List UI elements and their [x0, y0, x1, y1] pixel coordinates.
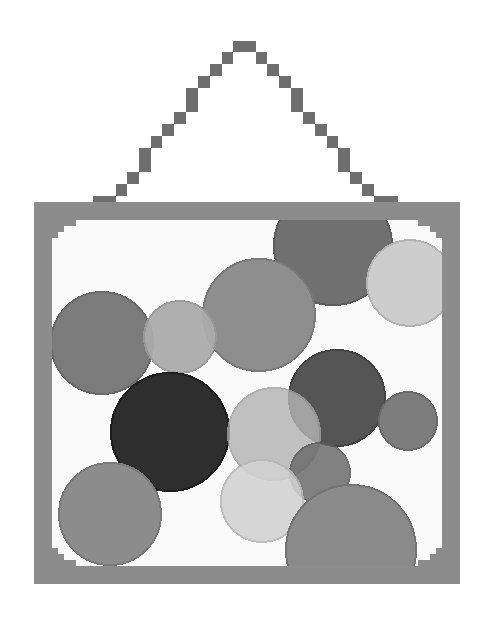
wire-segment	[174, 112, 186, 124]
wire-segment	[198, 76, 210, 88]
circle-small-right	[379, 392, 437, 450]
circle-bottom-left	[59, 463, 161, 565]
wire-segment	[233, 41, 256, 52]
wire-segment	[139, 148, 151, 172]
wire-segment	[162, 124, 174, 136]
wire-segment	[267, 64, 279, 76]
wire-segment	[315, 124, 327, 136]
wire-segment	[93, 196, 116, 202]
wire-segment	[362, 184, 374, 196]
wire-segment	[291, 88, 303, 112]
wire-segment	[222, 52, 233, 64]
wire-segment	[116, 184, 127, 196]
circle-mid-large	[203, 259, 315, 371]
wire-segment	[374, 196, 398, 202]
wire-segment	[151, 136, 162, 148]
wire-segment	[210, 64, 222, 76]
circle-bottom-big	[286, 485, 416, 615]
wire-segment	[338, 148, 350, 172]
hanging-picture-art	[0, 0, 494, 627]
hanging-wire	[93, 41, 398, 202]
wire-segment	[186, 88, 198, 112]
wire-segment	[279, 76, 291, 88]
wire-segment	[350, 172, 362, 184]
circle-top-right-light	[367, 240, 453, 326]
wire-segment	[127, 172, 139, 184]
circle-left-light	[144, 301, 216, 373]
wire-segment	[327, 136, 338, 148]
wire-segment	[256, 52, 267, 64]
circle-left	[51, 292, 153, 394]
wire-segment	[303, 112, 315, 124]
